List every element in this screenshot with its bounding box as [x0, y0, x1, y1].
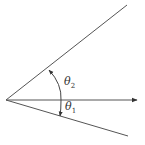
angle-arc — [49, 70, 61, 116]
theta2-label: θ2 — [64, 75, 75, 90]
diagram-canvas: θ2 θ1 — [0, 0, 145, 145]
angle-diagram: θ2 θ1 — [0, 0, 145, 145]
theta1-label: θ1 — [65, 100, 76, 115]
